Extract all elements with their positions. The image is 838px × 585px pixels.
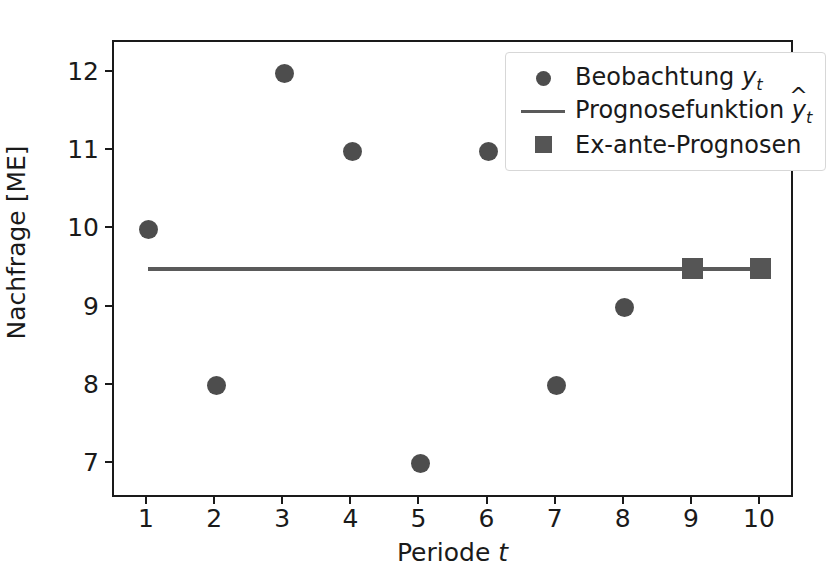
x-tick-label: 9 xyxy=(683,506,699,531)
observation-marker xyxy=(547,376,566,395)
observation-marker xyxy=(343,142,362,161)
y-axis-label: Nachfrage [ME] xyxy=(2,14,31,471)
forecast-marker xyxy=(750,258,771,279)
y-tick-mark xyxy=(105,148,112,150)
x-tick-mark xyxy=(349,497,351,504)
chart-legend: Beobachtung ytPrognosefunktion y^tEx-ant… xyxy=(505,52,826,171)
y-tick-label: 10 xyxy=(67,215,99,240)
forecast-marker xyxy=(682,258,703,279)
x-tick-label: 2 xyxy=(206,506,222,531)
x-tick-mark xyxy=(281,497,283,504)
y-tick-mark xyxy=(105,70,112,72)
legend-handle-glyph xyxy=(535,136,552,153)
x-tick-label: 6 xyxy=(479,506,495,531)
y-tick-label: 9 xyxy=(83,293,99,318)
x-tick-label: 7 xyxy=(547,506,563,531)
y-tick-label: 7 xyxy=(83,449,99,474)
forecast-line xyxy=(148,267,761,271)
x-tick-label: 3 xyxy=(274,506,290,531)
legend-handle-glyph xyxy=(536,71,551,86)
legend-item[interactable]: Beobachtung yt xyxy=(517,62,812,95)
x-tick-mark xyxy=(690,497,692,504)
x-tick-label: 8 xyxy=(615,506,631,531)
x-tick-mark xyxy=(758,497,760,504)
y-tick-mark xyxy=(105,226,112,228)
observation-marker xyxy=(139,220,158,239)
observation-marker xyxy=(207,376,226,395)
observation-marker xyxy=(275,64,294,83)
y-tick-mark xyxy=(105,461,112,463)
x-axis-label-text: Periode xyxy=(397,538,498,567)
legend-circle-icon xyxy=(517,71,569,86)
x-tick-mark xyxy=(145,497,147,504)
legend-square-icon xyxy=(517,136,569,153)
x-tick-label: 5 xyxy=(410,506,426,531)
x-axis-label-variable: t xyxy=(498,538,508,567)
chart-figure: 789101112 12345678910 Periode t Nachfrag… xyxy=(0,0,838,585)
legend-item-label: Beobachtung yt xyxy=(569,63,763,94)
x-tick-label: 1 xyxy=(138,506,154,531)
observation-marker xyxy=(479,142,498,161)
legend-item-label: Ex-ante-Prognosen xyxy=(569,131,801,159)
legend-handle-glyph xyxy=(521,110,565,113)
x-tick-mark xyxy=(622,497,624,504)
x-tick-label: 10 xyxy=(743,506,775,531)
x-tick-mark xyxy=(417,497,419,504)
y-tick-mark xyxy=(105,305,112,307)
x-tick-label: 4 xyxy=(342,506,358,531)
legend-item[interactable]: Prognosefunktion y^t xyxy=(517,95,812,128)
legend-item[interactable]: Ex-ante-Prognosen xyxy=(517,128,812,161)
y-tick-label: 11 xyxy=(67,137,99,162)
observation-marker xyxy=(411,454,430,473)
y-tick-mark xyxy=(105,383,112,385)
y-tick-label: 8 xyxy=(83,371,99,396)
x-tick-mark xyxy=(554,497,556,504)
observation-marker xyxy=(615,298,634,317)
x-tick-mark xyxy=(213,497,215,504)
x-tick-mark xyxy=(486,497,488,504)
legend-item-label: Prognosefunktion y^t xyxy=(569,96,812,127)
legend-line-icon xyxy=(517,110,569,113)
x-axis-label: Periode t xyxy=(112,538,793,567)
y-tick-label: 12 xyxy=(67,59,99,84)
x-axis: 12345678910 xyxy=(112,497,793,541)
